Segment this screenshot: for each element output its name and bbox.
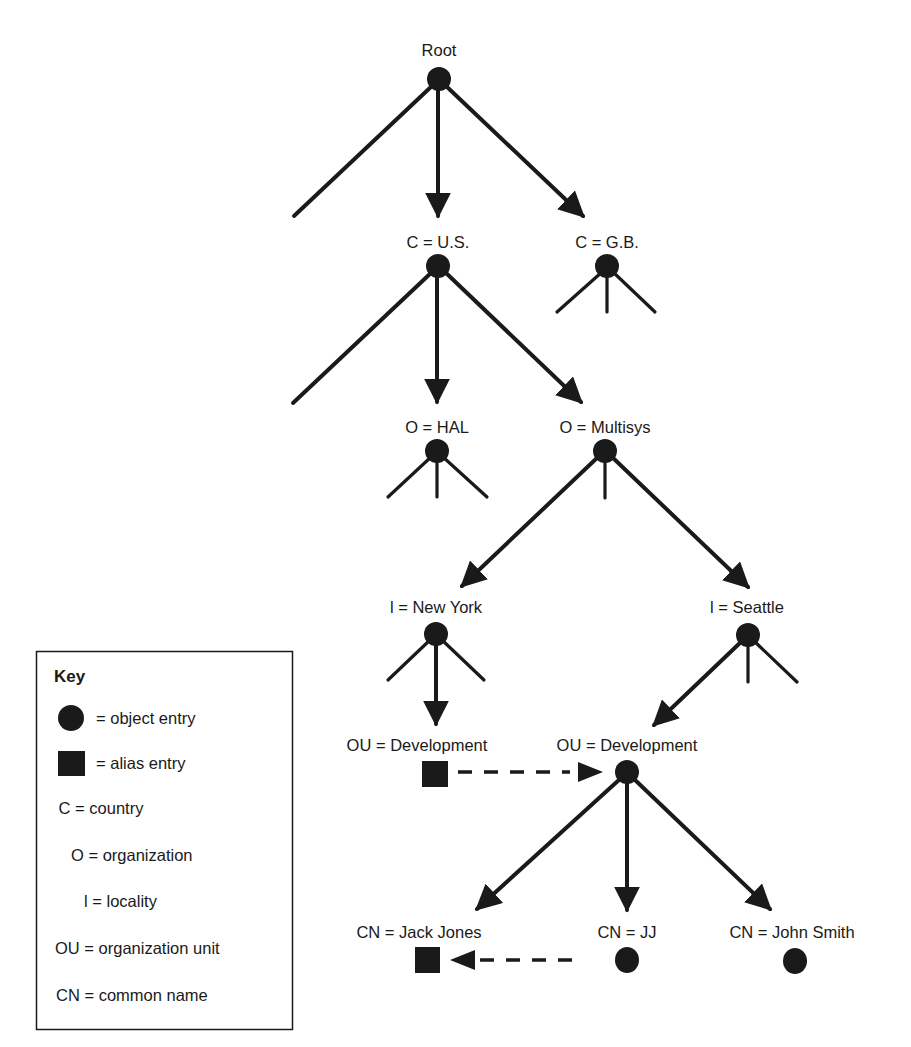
node-johnsmith-object-entry [783, 948, 807, 974]
edge-root-left-stub [294, 85, 433, 216]
label-ou-seattle: OU = Development [557, 736, 698, 754]
edge-seattle-to-ou [654, 641, 742, 725]
label-root: Root [422, 41, 457, 59]
label-gb: C = G.B. [575, 233, 639, 251]
legend-title: Key [54, 667, 86, 686]
legend-common-name: CN = common name [56, 986, 208, 1004]
edge-seattle-stub-right [754, 641, 797, 682]
node-ou-newyork-alias-entry [422, 761, 448, 787]
edge-multisys-to-newyork [462, 457, 598, 586]
legend-alias-entry-text: = alias entry [96, 754, 186, 772]
label-multisys: O = Multisys [559, 418, 650, 436]
edge-ou-to-johnsmith [634, 779, 770, 909]
arrowhead-alias-cn [450, 950, 475, 970]
directory-tree-diagram: Root C = U.S. C = G.B. O = HAL O = Multi… [0, 0, 911, 1047]
node-ou-seattle-object-entry [615, 760, 639, 784]
edge-newyork-stub-left [388, 640, 430, 680]
edge-gb-stub-left [557, 272, 602, 312]
legend-object-entry-text: = object entry [96, 709, 196, 727]
label-hal: O = HAL [405, 418, 469, 436]
label-jj: CN = JJ [597, 923, 656, 941]
node-us-object-entry [426, 254, 450, 278]
label-johnsmith: CN = John Smith [729, 923, 854, 941]
edge-multisys-to-seattle [612, 457, 748, 587]
edge-ou-to-jackjones [477, 779, 620, 909]
node-jj-object-entry [615, 947, 639, 973]
legend-key-box: Key = object entry = alias entry C = cou… [37, 652, 293, 1030]
arrowhead-alias-ou [578, 762, 603, 782]
legend-organization: O = organization [71, 846, 193, 864]
node-seattle-object-entry [736, 623, 760, 647]
node-jackjones-alias-entry [415, 947, 440, 973]
edge-newyork-stub-right [442, 640, 484, 680]
legend-object-entry-icon [58, 705, 84, 731]
edge-root-to-gb [446, 86, 583, 216]
edge-us-left-stub [293, 272, 432, 403]
label-ou-newyork: OU = Development [347, 736, 488, 754]
legend-organization-unit: OU = organization unit [55, 939, 220, 957]
edge-hal-stub-left [388, 457, 431, 497]
edge-gb-stub-right [613, 272, 655, 312]
node-multisys-object-entry [593, 439, 617, 463]
node-newyork-object-entry [424, 622, 448, 646]
label-us: C = U.S. [407, 233, 470, 251]
node-gb-object-entry [595, 254, 619, 278]
node-root-object-entry [427, 67, 451, 91]
legend-country: C = country [59, 799, 145, 817]
label-seattle: l = Seattle [710, 598, 784, 616]
edge-hal-stub-right [443, 457, 487, 497]
node-hal-object-entry [425, 439, 449, 463]
label-jackjones: CN = Jack Jones [356, 923, 481, 941]
legend-alias-entry-icon [58, 751, 85, 776]
label-newyork: l = New York [390, 598, 483, 616]
legend-locality: l = locality [84, 892, 158, 910]
edge-us-to-multisys [445, 272, 581, 402]
